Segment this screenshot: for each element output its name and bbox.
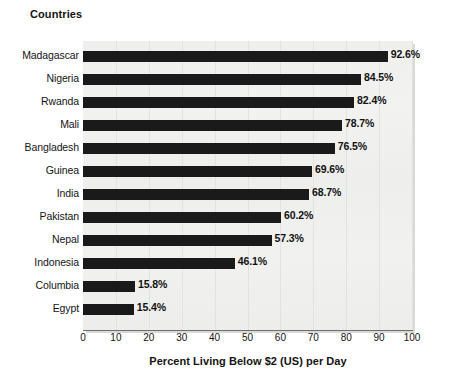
bar-value-label: 84.5% xyxy=(364,71,393,83)
bar-row: 15.8% xyxy=(83,275,412,298)
bar-row: 78.7% xyxy=(83,114,412,137)
bar-row: 76.5% xyxy=(83,137,412,160)
bar-row: 92.6% xyxy=(83,45,412,68)
bar xyxy=(83,143,335,154)
category-label: Indonesia xyxy=(0,256,79,268)
bar xyxy=(83,120,342,131)
plot-area: 92.6%84.5%82.4%78.7%76.5%69.6%68.7%60.2%… xyxy=(83,41,412,330)
bar-value-label: 78.7% xyxy=(345,117,374,129)
bar xyxy=(83,281,135,292)
bar-value-label: 57.3% xyxy=(275,232,304,244)
category-label: Madagascar xyxy=(0,49,79,61)
x-tick-label: 10 xyxy=(110,332,121,343)
x-tick-label: 70 xyxy=(308,332,319,343)
category-label: Pakistan xyxy=(0,210,79,222)
x-axis-line xyxy=(83,330,413,331)
x-tick-label: 0 xyxy=(80,332,86,343)
bar xyxy=(83,212,281,223)
bar-row: 84.5% xyxy=(83,68,412,91)
bars-layer: 92.6%84.5%82.4%78.7%76.5%69.6%68.7%60.2%… xyxy=(83,41,412,330)
category-label: Guinea xyxy=(0,164,79,176)
x-tick-label: 100 xyxy=(404,332,421,343)
bar-value-label: 92.6% xyxy=(391,48,420,60)
category-label: India xyxy=(0,187,79,199)
bar-row: 46.1% xyxy=(83,252,412,275)
x-tick-label: 60 xyxy=(275,332,286,343)
bar-value-label: 82.4% xyxy=(357,94,386,106)
bar-value-label: 60.2% xyxy=(284,209,313,221)
x-tick-label: 50 xyxy=(242,332,253,343)
bar-value-label: 15.4% xyxy=(137,301,166,313)
category-label: Nepal xyxy=(0,233,79,245)
x-tick-label: 40 xyxy=(209,332,220,343)
bar-value-label: 68.7% xyxy=(312,186,341,198)
category-label: Rwanda xyxy=(0,95,79,107)
category-label: Mali xyxy=(0,118,79,130)
x-tick-label: 30 xyxy=(176,332,187,343)
bar-value-label: 15.8% xyxy=(138,278,167,290)
x-axis-ticks: 0102030405060708090100 xyxy=(83,332,413,346)
x-tick-label: 90 xyxy=(374,332,385,343)
x-tick-label: 80 xyxy=(341,332,352,343)
bar-row: 69.6% xyxy=(83,160,412,183)
category-label: Nigeria xyxy=(0,72,79,84)
x-axis-title: Percent Living Below $2 (US) per Day xyxy=(83,355,413,367)
bar xyxy=(83,97,354,108)
bar xyxy=(83,166,312,177)
bar-value-label: 46.1% xyxy=(238,255,267,267)
page-title: Countries xyxy=(30,8,82,20)
bar-value-label: 76.5% xyxy=(338,140,367,152)
category-label: Columbia xyxy=(0,279,79,291)
category-label: Bangladesh xyxy=(0,141,79,153)
x-tick-label: 20 xyxy=(143,332,154,343)
bar-row: 60.2% xyxy=(83,206,412,229)
bar xyxy=(83,258,235,269)
bar xyxy=(83,51,388,62)
bar-row: 57.3% xyxy=(83,229,412,252)
bar-chart: Countries 92.6%84.5%82.4%78.7%76.5%69.6%… xyxy=(0,0,449,378)
bar-row: 82.4% xyxy=(83,91,412,114)
bar-value-label: 69.6% xyxy=(315,163,344,175)
bar xyxy=(83,304,134,315)
category-label: Egypt xyxy=(0,302,79,314)
bar xyxy=(83,74,361,85)
bar-row: 68.7% xyxy=(83,183,412,206)
bar-row: 15.4% xyxy=(83,298,412,321)
bar xyxy=(83,235,272,246)
bar xyxy=(83,189,309,200)
category-axis-labels: MadagascarNigeriaRwandaMaliBangladeshGui… xyxy=(0,41,79,330)
